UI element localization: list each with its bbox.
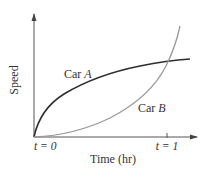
tick-label-t1: t = 1 — [156, 140, 178, 152]
car-b-label: Car B — [138, 101, 166, 115]
speed-time-chart: Speed Time (hr) t = 0 t = 1 Car A Car B — [0, 0, 207, 176]
car-a-curve — [34, 59, 190, 137]
car-a-label: Car A — [64, 67, 92, 81]
y-axis-label: Speed — [7, 65, 21, 94]
x-axis-label: Time (hr) — [90, 152, 136, 166]
car-b-curve — [34, 26, 180, 137]
car-a-label-prefix: Car — [64, 67, 84, 81]
car-a-label-letter: A — [83, 67, 92, 81]
car-b-label-prefix: Car — [138, 101, 158, 115]
car-b-label-letter: B — [158, 101, 166, 115]
tick-label-t0: t = 0 — [34, 140, 57, 152]
